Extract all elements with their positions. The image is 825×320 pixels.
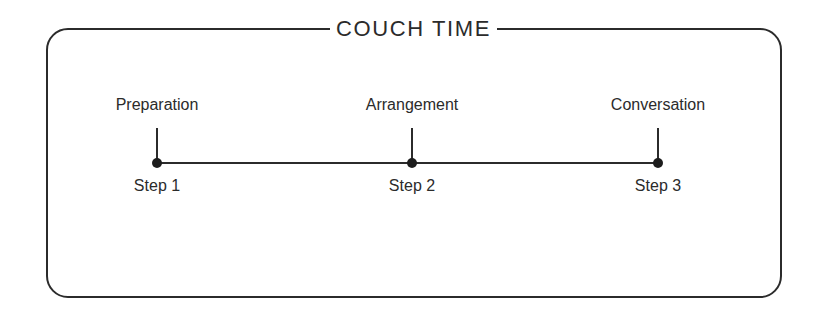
milestone-dot-icon-2 [407, 158, 417, 168]
milestone-step-3: Step 3 [498, 176, 818, 196]
milestone-tick-icon-2 [411, 128, 413, 159]
milestone-dot-icon-1 [152, 158, 162, 168]
timeline-infographic: COUCH TIME Preparation Step 1 Arrangemen… [0, 0, 825, 320]
milestone-tick-icon-3 [657, 128, 659, 159]
milestone-label-3: Conversation [498, 95, 818, 115]
milestone-dot-icon-3 [653, 158, 663, 168]
milestone-tick-icon-1 [156, 128, 158, 159]
